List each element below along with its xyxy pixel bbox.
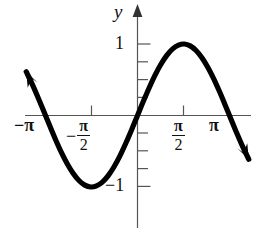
x-tick-label-negative-pi-over-two: − π 2 (66, 118, 90, 153)
sine-graph-figure: y 1 −1 −π − π 2 π 2 π (0, 0, 253, 229)
fraction-minus-sign: − (66, 127, 76, 145)
y-axis-arrowhead-icon (133, 4, 143, 17)
y-tick-label-one: 1 (115, 34, 124, 52)
x-tick-label-negative-pi: −π (14, 116, 34, 134)
fraction-denominator: 2 (80, 136, 88, 153)
fraction-denominator: 2 (175, 136, 183, 153)
fraction-numerator: π (172, 118, 185, 135)
x-tick-label-pi-over-two: π 2 (172, 118, 185, 153)
fraction-stack: π 2 (172, 118, 185, 153)
fraction-numerator: π (77, 118, 90, 135)
y-axis-label: y (114, 2, 122, 21)
y-tick-label-negative-one: −1 (105, 176, 124, 194)
fraction-stack: π 2 (77, 118, 90, 153)
x-tick-label-pi: π (209, 116, 219, 134)
